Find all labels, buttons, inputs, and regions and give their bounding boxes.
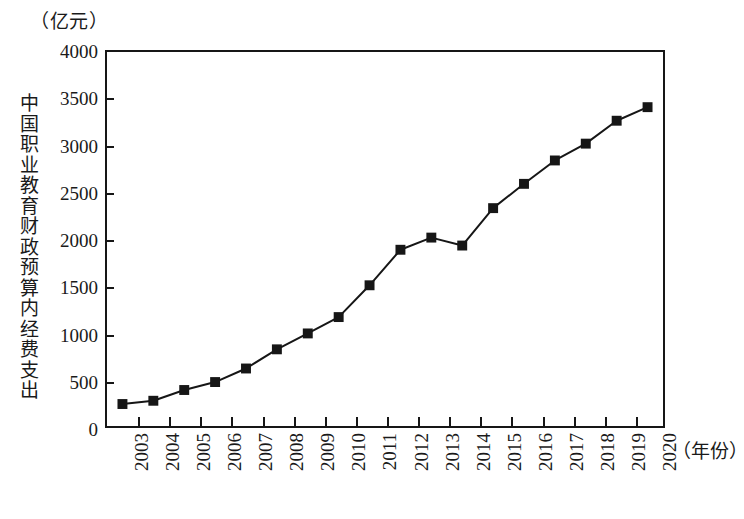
x-tick-label-text: 2005 [193,433,215,471]
y-tick-mark [107,146,114,148]
y-tick-label: 2000 [36,230,107,252]
x-tick-label: 2004 [162,432,184,470]
x-tick-mark [138,417,140,426]
x-tick-label: 2018 [597,432,619,470]
x-tick-label: 2019 [628,432,650,470]
y-tick-mark [107,193,114,195]
x-axis-unit-label: （年份） [672,436,744,463]
data-point-marker [210,377,220,387]
data-point-marker [643,102,653,112]
data-point-marker [550,156,560,166]
y-tick-mark [107,335,114,337]
x-tick-mark [263,417,265,426]
y-axis-unit-label: （亿元） [30,6,108,33]
data-point-marker [488,203,498,213]
x-tick-label-text: 2011 [379,433,401,470]
y-tick-label: 3000 [36,136,107,158]
data-point-marker [581,139,591,149]
x-tick-label-text: 2017 [566,433,588,471]
x-tick-label: 2010 [348,432,370,470]
x-tick-mark [511,417,513,426]
x-tick-label-text: 2006 [224,433,246,471]
y-tick-label: 1000 [36,325,107,347]
x-tick-label-text: 2015 [504,433,526,471]
x-tick-label-text: 2016 [535,433,557,471]
plot-area: 0500100015002000250030003500400020032004… [105,50,665,428]
x-tick-mark [387,417,389,426]
data-point-marker [426,233,436,243]
data-point-marker [519,179,529,189]
data-point-marker [303,328,313,338]
x-tick-label-text: 2010 [348,433,370,471]
x-tick-label-text: 2009 [317,433,339,471]
y-tick-label: 1500 [36,277,107,299]
x-tick-mark [480,417,482,426]
x-tick-label-text: 2014 [473,433,495,471]
figure-caption [0,505,744,519]
y-tick-mark [107,240,114,242]
series-line [122,107,647,404]
x-tick-label: 2005 [193,432,215,470]
x-tick-label: 2011 [379,432,401,469]
x-tick-mark [449,417,451,426]
x-tick-mark [574,417,576,426]
x-tick-mark [325,417,327,426]
x-tick-label: 2015 [504,432,526,470]
y-tick-label: 500 [36,372,107,394]
x-tick-label: 2003 [131,432,153,470]
y-tick-mark [107,98,114,100]
x-tick-label: 2009 [317,432,339,470]
y-tick-label: 3500 [36,88,107,110]
data-point-marker [117,399,127,409]
x-tick-label-text: 2003 [131,433,153,471]
y-axis-title: 中国职业教育财政预算内经费支出 [12,62,38,432]
data-point-marker [148,396,158,406]
x-tick-label-text: 2013 [442,433,464,471]
x-tick-label: 2006 [224,432,246,470]
x-tick-label-text: 2004 [162,433,184,471]
x-tick-mark [605,417,607,426]
data-point-marker [179,385,189,395]
x-tick-label: 2013 [442,432,464,470]
x-tick-mark [231,417,233,426]
x-tick-label: 2017 [566,432,588,470]
chart-figure: （亿元） 中国职业教育财政预算内经费支出 0500100015002000250… [0,0,744,519]
data-point-marker [365,280,375,290]
y-tick-label: 2500 [36,183,107,205]
x-tick-label: 2008 [286,432,308,470]
data-point-marker [241,364,251,374]
x-tick-mark [200,417,202,426]
x-tick-label-text: 2018 [597,433,619,471]
x-tick-mark [543,417,545,426]
x-tick-mark [418,417,420,426]
y-tick-mark [107,287,114,289]
y-tick-mark [107,382,114,384]
x-tick-label-text: 2007 [255,433,277,471]
x-tick-mark [636,417,638,426]
x-tick-mark [294,417,296,426]
data-point-marker [612,116,622,126]
x-tick-label-text: 2012 [411,433,433,471]
y-tick-label: 4000 [36,41,107,63]
x-tick-label: 2012 [411,432,433,470]
x-tick-mark [169,417,171,426]
data-point-marker [457,241,467,251]
data-point-marker [395,245,405,255]
x-tick-label-text: 2008 [286,433,308,471]
x-tick-label: 2007 [255,432,277,470]
data-point-marker [272,344,282,354]
x-tick-label: 2014 [473,432,495,470]
data-point-marker [334,312,344,322]
line-series [107,52,663,426]
x-tick-label-text: 2019 [628,433,650,471]
x-tick-mark [356,417,358,426]
x-tick-label: 2016 [535,432,557,470]
y-tick-label: 0 [36,419,107,441]
